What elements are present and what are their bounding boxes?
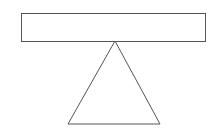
balance-diagram [0,0,218,137]
fulcrum-triangle [68,41,160,124]
beam-rectangle [22,14,206,42]
